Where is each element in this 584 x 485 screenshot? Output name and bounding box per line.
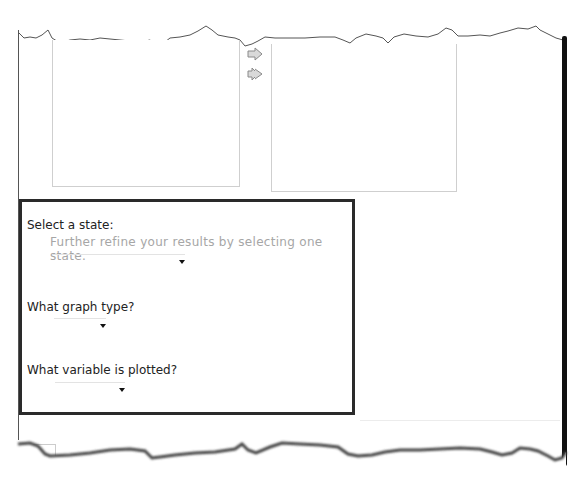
graph-type-dropdown[interactable]: [54, 318, 106, 333]
variable-dropdown[interactable]: [55, 382, 125, 397]
chevron-down-icon: [179, 260, 185, 264]
double-arrow-right-icon: [247, 67, 263, 81]
graph-type-label: What graph type?: [27, 300, 134, 314]
chevron-down-icon: [100, 324, 106, 328]
state-label: Select a state:: [27, 218, 113, 232]
page-right-shadow: [562, 36, 567, 466]
chevron-down-icon: [119, 388, 125, 392]
arrow-right-icon: [247, 47, 263, 61]
divider: [360, 420, 560, 421]
state-dropdown[interactable]: [53, 254, 185, 269]
variable-label: What variable is plotted?: [27, 363, 177, 377]
selected-items-listbox[interactable]: [271, 44, 457, 192]
torn-edge-bottom: [0, 430, 584, 485]
add-selected-button[interactable]: [247, 46, 263, 60]
graph-options-panel: Select a state: Further refine your resu…: [19, 199, 355, 415]
add-all-button[interactable]: [247, 66, 263, 80]
available-items-listbox[interactable]: [52, 40, 240, 187]
